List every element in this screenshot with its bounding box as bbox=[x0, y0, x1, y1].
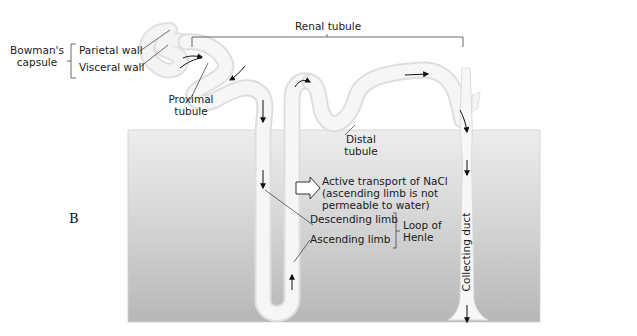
proximal-tubule-line1: Proximal bbox=[166, 93, 216, 105]
loop-of-henle-line1: Loop of bbox=[403, 219, 442, 231]
bowmans-capsule-label: Bowman's capsule bbox=[6, 44, 68, 68]
bowmans-capsule-line2: capsule bbox=[6, 56, 68, 68]
medulla-region bbox=[128, 130, 540, 322]
active-transport-line1: Active transport of NaCl bbox=[322, 175, 448, 187]
proximal-tubule-label: Proximal tubule bbox=[166, 93, 216, 117]
active-transport-label: Active transport of NaCl (ascending limb… bbox=[322, 175, 448, 211]
renal-tubule-label: Renal tubule bbox=[295, 20, 361, 32]
distal-tubule-label: Distal tubule bbox=[340, 133, 382, 157]
active-transport-line3: permeable to water) bbox=[322, 199, 448, 211]
distal-tubule-shape bbox=[310, 70, 462, 124]
visceral-wall-label: Visceral wall bbox=[79, 61, 144, 73]
loop-of-henle-label: Loop of Henle bbox=[403, 219, 442, 243]
active-transport-line2: (ascending limb is not bbox=[322, 187, 448, 199]
distal-tubule-line1: Distal bbox=[340, 133, 382, 145]
bowmans-capsule-line1: Bowman's bbox=[6, 44, 68, 56]
distal-tubule-line2: tubule bbox=[340, 145, 382, 157]
panel-letter: B bbox=[69, 211, 79, 226]
loop-of-henle-line2: Henle bbox=[403, 231, 442, 243]
nephron-diagram: Bowman's capsule Parietal wall Visceral … bbox=[0, 0, 637, 336]
ascending-limb-label: Ascending limb bbox=[310, 233, 391, 245]
parietal-wall-label: Parietal wall bbox=[79, 44, 143, 56]
collecting-duct-label: Collecting duct bbox=[460, 207, 472, 297]
proximal-tubule-line2: tubule bbox=[166, 105, 216, 117]
descending-limb-label: Descending limb bbox=[310, 213, 398, 225]
